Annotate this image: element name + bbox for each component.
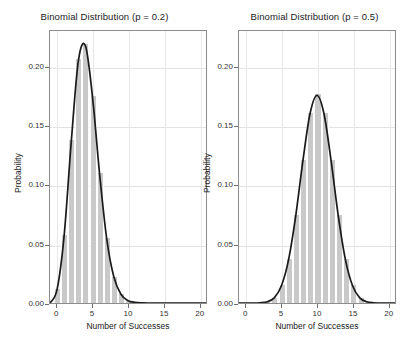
x-axis-title-right: Number of Successes <box>238 321 396 331</box>
gridline-horizontal <box>50 127 206 128</box>
x-axis-tick-label: 10 <box>116 309 140 318</box>
y-axis-tick <box>45 304 49 305</box>
histogram-bar <box>329 160 336 303</box>
histogram-bar <box>111 277 118 303</box>
gridline-horizontal <box>50 68 206 69</box>
histogram-bar <box>133 302 140 303</box>
panel-title-left: Binomial Distribution (p = 0.2) <box>0 11 209 22</box>
y-axis-tick <box>45 245 49 246</box>
histogram-bar <box>54 289 61 303</box>
histogram-bar <box>350 285 357 303</box>
x-axis-tick-label: 5 <box>80 309 104 318</box>
histogram-bar <box>279 285 286 303</box>
histogram-bar <box>322 113 329 303</box>
y-axis-tick <box>45 126 49 127</box>
x-axis-tick-label: 15 <box>341 309 365 318</box>
x-axis-tick <box>56 304 57 308</box>
histogram-bar <box>125 301 132 303</box>
binomial-distribution-figure: Binomial Distribution (p = 0.2) Number o… <box>0 0 419 341</box>
histogram-bar <box>365 302 372 303</box>
x-axis-tick <box>128 304 129 308</box>
plot-axes-right <box>238 30 396 304</box>
histogram-bar <box>140 302 147 303</box>
histogram-bar <box>343 259 350 303</box>
x-axis-tick-label: 10 <box>305 309 329 318</box>
x-axis-tick <box>317 304 318 308</box>
y-axis-tick-label: 0.15 <box>17 121 44 130</box>
gridline-vertical <box>57 31 58 303</box>
histogram-bar <box>264 302 271 303</box>
x-axis-tick-label: 0 <box>44 309 68 318</box>
y-axis-tick-label: 0.10 <box>206 180 233 189</box>
histogram-bar <box>271 298 278 303</box>
histogram-bar <box>104 238 111 303</box>
x-axis-tick-label: 0 <box>233 309 257 318</box>
x-axis-tick-label: 20 <box>188 309 212 318</box>
x-axis-tick <box>389 304 390 308</box>
panel-binomial-p02: Binomial Distribution (p = 0.2) Number o… <box>0 0 209 341</box>
y-axis-tick <box>45 67 49 68</box>
histogram-bar <box>97 173 104 303</box>
gridline-horizontal <box>239 68 395 69</box>
histogram-bar <box>286 259 293 303</box>
x-axis-tick-label: 20 <box>377 309 401 318</box>
histogram-bar <box>358 298 365 303</box>
histogram-bar <box>307 113 314 303</box>
x-axis-tick <box>245 304 246 308</box>
panel-binomial-p05: Binomial Distribution (p = 0.5) Number o… <box>210 0 419 341</box>
gridline-vertical <box>165 31 166 303</box>
gridline-vertical <box>354 31 355 303</box>
x-axis-tick <box>281 304 282 308</box>
histogram-bar <box>75 59 82 303</box>
plot-axes-left <box>49 30 207 304</box>
y-axis-tick-label: 0.20 <box>17 62 44 71</box>
y-axis-tick <box>234 185 238 186</box>
histogram-bar <box>336 215 343 303</box>
x-axis-title-left: Number of Successes <box>49 321 207 331</box>
histogram-bar <box>300 160 307 303</box>
y-axis-tick-label: 0.20 <box>206 62 233 71</box>
x-axis-tick-label: 15 <box>152 309 176 318</box>
histogram-bar <box>372 302 379 303</box>
y-axis-tick <box>45 185 49 186</box>
x-axis-tick <box>353 304 354 308</box>
y-axis-tick <box>234 245 238 246</box>
gridline-vertical <box>282 31 283 303</box>
x-axis-tick <box>164 304 165 308</box>
histogram-bar <box>257 302 264 303</box>
y-axis-tick <box>234 304 238 305</box>
y-axis-tick-label: 0.15 <box>206 121 233 130</box>
histogram-bar <box>68 140 75 303</box>
histogram-bar <box>314 94 321 303</box>
y-axis-tick-label: 0.00 <box>206 299 233 308</box>
gridline-vertical <box>246 31 247 303</box>
y-axis-tick-label: 0.00 <box>17 299 44 308</box>
histogram-bar <box>82 44 89 303</box>
plot-area-right <box>239 31 395 303</box>
y-axis-tick-label: 0.05 <box>17 240 44 249</box>
histogram-bar <box>90 96 97 303</box>
y-axis-tick-label: 0.10 <box>17 180 44 189</box>
histogram-bar <box>293 215 300 303</box>
histogram-bar <box>118 294 125 303</box>
plot-area-left <box>50 31 206 303</box>
x-axis-tick-label: 5 <box>269 309 293 318</box>
gridline-vertical <box>129 31 130 303</box>
y-axis-tick <box>234 126 238 127</box>
gridline-vertical <box>390 31 391 303</box>
y-axis-tick-label: 0.05 <box>206 240 233 249</box>
x-axis-tick <box>200 304 201 308</box>
y-axis-tick <box>234 67 238 68</box>
x-axis-tick <box>92 304 93 308</box>
histogram-bar <box>61 235 68 303</box>
panel-title-right: Binomial Distribution (p = 0.5) <box>210 11 419 22</box>
